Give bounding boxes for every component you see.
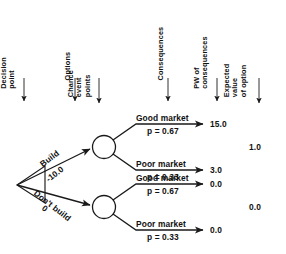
outcome-market-label: Good market [136, 113, 189, 123]
outcome-pw-value: 0.0 [210, 225, 222, 235]
expected-value-dont-build: 0.0 [245, 202, 265, 212]
outcome-probability: p = 0.67 [147, 186, 179, 196]
chance-node-dont-build [93, 196, 116, 219]
chance-node-build [93, 136, 116, 159]
outcome-probability: p = 0.33 [147, 232, 179, 242]
outcome-pw-value: 0.0 [210, 179, 222, 189]
outcome-market-label: Poor market [136, 219, 186, 229]
outcome-market-label: Poor market [136, 159, 186, 169]
outcome-pw-value: 15.0 [210, 119, 227, 129]
expected-value-build: 1.0 [245, 142, 265, 152]
outcome-probability: p = 0.67 [147, 126, 179, 136]
outcome-pw-value: 3.0 [210, 165, 222, 175]
decision-tree-diagram: Decision point Options Chance event poin… [0, 0, 286, 254]
outcome-market-label: Good market [136, 173, 189, 183]
tree-graphics [0, 0, 286, 254]
column-arrows [24, 78, 259, 103]
